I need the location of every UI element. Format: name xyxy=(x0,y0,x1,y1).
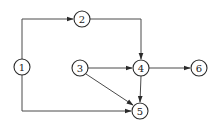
edge-4-to-5 xyxy=(140,76,141,102)
node-6: 6 xyxy=(191,60,207,76)
edge-3-to-5 xyxy=(86,74,133,105)
node-2: 2 xyxy=(74,11,90,27)
node-3-label: 3 xyxy=(77,63,83,74)
edge-1-to-2 xyxy=(22,19,73,59)
node-4: 4 xyxy=(133,60,149,76)
node-4-label: 4 xyxy=(138,63,144,74)
node-1: 1 xyxy=(14,59,30,75)
node-6-label: 6 xyxy=(196,63,202,74)
node-5-label: 5 xyxy=(137,106,143,117)
node-3: 3 xyxy=(72,60,88,76)
edge-2-to-4 xyxy=(90,19,141,59)
nodes: 1 2 3 4 5 6 xyxy=(14,11,207,119)
node-2-label: 2 xyxy=(79,14,85,25)
directed-graph: 1 2 3 4 5 6 xyxy=(0,0,220,129)
edges xyxy=(22,19,190,111)
node-5: 5 xyxy=(132,103,148,119)
node-1-label: 1 xyxy=(19,62,25,73)
